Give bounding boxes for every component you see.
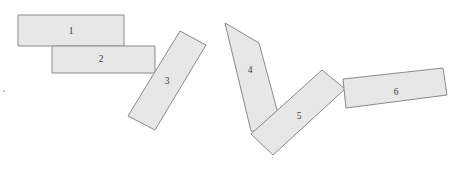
rectangle-label-1: 1 bbox=[69, 26, 74, 36]
rectangle-label-6: 6 bbox=[394, 87, 399, 97]
rectangle-label-3: 3 bbox=[165, 76, 170, 86]
shapes-layer bbox=[18, 15, 447, 155]
rectangles-diagram: 123456 bbox=[0, 0, 459, 169]
rectangle-label-4: 4 bbox=[248, 65, 253, 75]
scan-speck-0 bbox=[3, 90, 5, 92]
rectangle-2[interactable] bbox=[52, 46, 155, 73]
rectangle-label-2: 2 bbox=[99, 54, 104, 64]
rectangle-label-5: 5 bbox=[297, 111, 302, 121]
figure-canvas: 123456 bbox=[0, 0, 459, 169]
specks-layer bbox=[3, 90, 5, 92]
